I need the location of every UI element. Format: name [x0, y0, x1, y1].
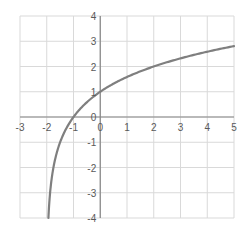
x-tick-label: 2 [151, 122, 157, 133]
y-tick-label: 0 [91, 112, 97, 123]
y-tick-label: -3 [87, 188, 96, 199]
x-tick-label: -1 [69, 122, 78, 133]
x-tick-label: 3 [178, 122, 184, 133]
x-tick-label: 1 [124, 122, 130, 133]
y-tick-label: 2 [91, 62, 97, 73]
x-tick-label: 4 [204, 122, 210, 133]
y-tick-label: -4 [87, 213, 96, 224]
chart-area: -3-2-1012345 43210-1-2-3-4 [0, 0, 248, 233]
x-tick-label: -3 [16, 122, 25, 133]
x-tick-label: -2 [42, 122, 51, 133]
y-tick-label: 1 [91, 87, 97, 98]
x-tick-label: 0 [97, 122, 103, 133]
y-tick-label: 4 [91, 11, 97, 22]
x-tick-label: 5 [231, 122, 237, 133]
y-tick-label: 3 [91, 36, 97, 47]
y-tick-label: -1 [87, 137, 96, 148]
x-axis-tick-labels: -3-2-1012345 [16, 122, 238, 133]
y-tick-label: -2 [87, 163, 96, 174]
